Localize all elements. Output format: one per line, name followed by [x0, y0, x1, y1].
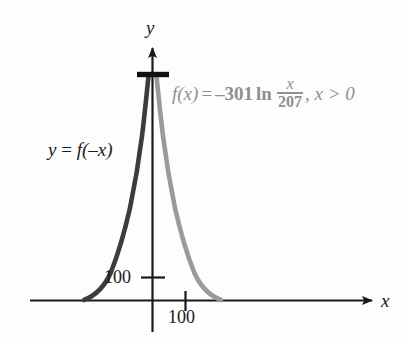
plot-svg [0, 0, 407, 341]
equation-numerator: x [283, 76, 296, 92]
equation-equals: = [201, 84, 212, 103]
equation-coefficient: –301 [215, 84, 253, 103]
axis-label-y: y [146, 18, 154, 37]
equation-domain: , x > 0 [305, 84, 355, 103]
equation-ln-operator: ln [256, 84, 272, 103]
equation-fn: f(x) [172, 84, 198, 103]
y-axis-tick-label-100: 100 [104, 268, 131, 286]
equation-denominator: 207 [277, 94, 303, 110]
equation-fraction: x 207 [277, 76, 303, 111]
reflected-label-equals: = [61, 139, 72, 160]
axis-label-x: x [381, 291, 389, 310]
reflected-label-arg: (–x) [82, 139, 113, 160]
annotation-function-equation: f(x) = –301 ln x 207 , x > 0 [172, 76, 358, 111]
figure-container: y x 100 100 y = f(–x) f(x) = –301 ln x 2… [0, 0, 407, 341]
x-axis-tick-label-100: 100 [168, 308, 195, 326]
annotation-reflected-curve: y = f(–x) [48, 140, 113, 159]
